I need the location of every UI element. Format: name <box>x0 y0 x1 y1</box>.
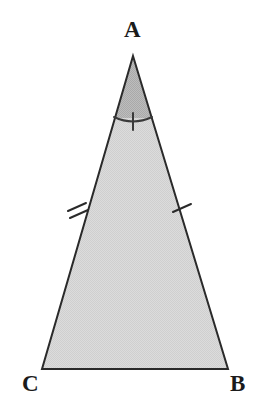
triangle-figure <box>0 0 263 415</box>
side-AC-tick-1 <box>68 203 86 211</box>
vertex-label-a: A <box>124 18 141 41</box>
geometry-diagram-canvas: A C B <box>0 0 263 415</box>
vertex-label-b: B <box>230 372 245 395</box>
vertex-label-c: C <box>22 372 39 395</box>
